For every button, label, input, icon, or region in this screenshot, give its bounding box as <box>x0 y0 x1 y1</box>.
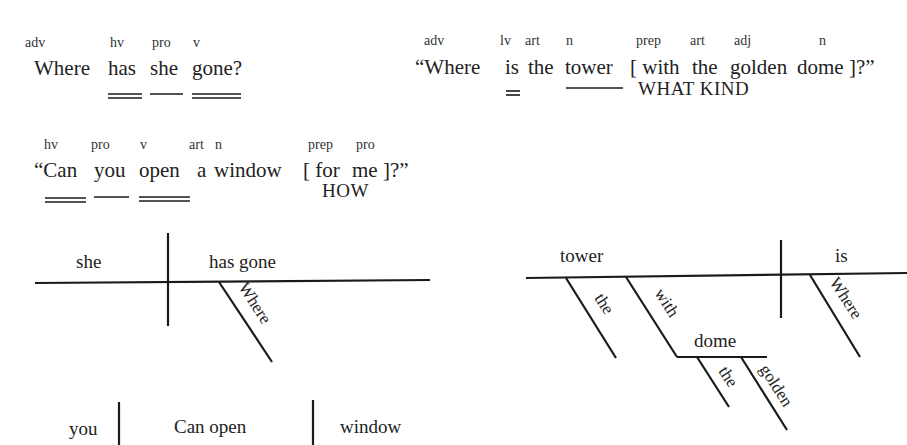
diagram-1-verb: has gone <box>209 251 276 273</box>
diagram-2-prep-object-modifier: golden <box>756 361 797 411</box>
diagram-1-subject: she <box>76 251 101 273</box>
diagram-2-verb: is <box>835 245 848 267</box>
diagram-2-verb-modifier: Where <box>826 274 867 322</box>
diagram-3-subject: you <box>69 418 98 440</box>
diagram-2-prep-object: dome <box>694 330 736 352</box>
sentence-1-underlines <box>108 94 241 98</box>
diagram-2-subject: tower <box>560 245 603 267</box>
sentence-2-underlines <box>506 88 623 95</box>
diagram-2-modifier: the <box>591 290 618 318</box>
sentence-3-underlines <box>45 197 190 202</box>
modifier-slant-the <box>566 278 616 358</box>
diagram-1-modifier: Where <box>235 279 276 327</box>
diagram-2-preposition: with <box>651 285 684 321</box>
baseline <box>526 273 907 278</box>
diagram-2-prep-object-modifier: the <box>715 363 742 391</box>
diagram-3-verb: Can open <box>174 416 246 438</box>
diagram-canvas: Where the with the golden Where <box>0 0 907 445</box>
diagram-3-object: window <box>340 416 401 438</box>
baseline <box>35 280 430 283</box>
